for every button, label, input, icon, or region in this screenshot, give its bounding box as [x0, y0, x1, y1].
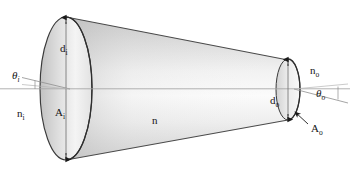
label-output-index: no	[310, 64, 320, 79]
label-input-angle: θi	[12, 69, 20, 84]
label-output-area: Ao	[311, 122, 323, 137]
figure-root: di θi ni Ai n do no θo Ao	[0, 0, 350, 177]
output-area-leader-line	[295, 112, 308, 124]
output-area-leader-arrow	[295, 112, 308, 124]
label-input-index: ni	[17, 107, 25, 122]
cone-diagram-svg: di θi ni Ai n do no θo Ao	[0, 0, 350, 177]
label-output-angle: θo	[316, 87, 325, 102]
label-medium-index: n	[152, 114, 158, 126]
